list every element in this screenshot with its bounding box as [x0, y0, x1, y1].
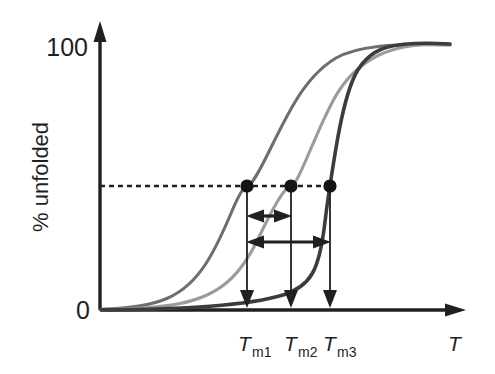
- thermal-unfolding-chart: 100 0 % unfolded T T m1 T m2 T m3: [0, 0, 495, 374]
- x-tick-label-tm1: T m1: [238, 332, 272, 360]
- curves-group: [101, 43, 450, 310]
- drop-line-tm1-arrowhead: [240, 290, 254, 308]
- x-tick-label-tm3: T m3: [323, 332, 357, 360]
- x-tick-label-tm2: T m2: [284, 332, 318, 360]
- delta-tm1-tm2-arrowhead-right: [274, 210, 292, 223]
- curve-tm3-path: [101, 43, 450, 310]
- y-axis-min-tick-label: 0: [76, 296, 90, 324]
- curve-tm1-path: [101, 44, 450, 309]
- x-tick-label-tm2-sub: m2: [298, 344, 318, 360]
- delta-arrows-group: [246, 210, 331, 249]
- drop-line-tm3-arrowhead: [323, 290, 337, 308]
- midpoint-marker-tm3: [323, 179, 336, 192]
- axes-group: [94, 21, 467, 317]
- y-axis-title: % unfolded: [28, 122, 53, 232]
- x-tick-label-tm2-base: T: [284, 332, 299, 355]
- midpoint-marker-tm1: [240, 179, 253, 192]
- drop-line-tm2-arrowhead: [284, 290, 298, 308]
- delta-tm1-tm2-arrowhead-left: [246, 210, 264, 223]
- x-axis-arrowhead: [445, 304, 466, 317]
- y-axis-max-tick-label: 100: [46, 33, 88, 61]
- x-tick-label-tm1-sub: m1: [252, 344, 272, 360]
- unfolding-curve-figure: 100 0 % unfolded T T m1 T m2 T m3: [0, 0, 495, 374]
- midpoint-marker-tm2: [284, 179, 297, 192]
- x-tick-label-tm3-base: T: [323, 332, 338, 355]
- x-tick-label-tm3-sub: m3: [337, 344, 357, 360]
- curve-tm2-path: [101, 44, 450, 310]
- x-axis-title: T: [448, 332, 463, 355]
- y-axis-arrowhead: [94, 21, 107, 42]
- x-tick-label-tm1-base: T: [238, 332, 253, 355]
